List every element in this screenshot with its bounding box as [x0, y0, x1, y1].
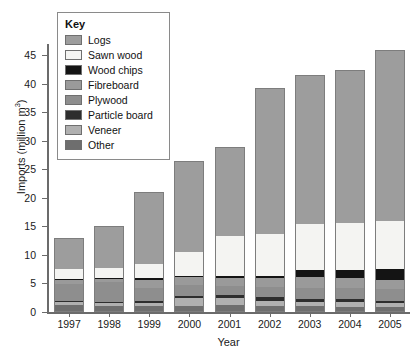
bar-stack: [94, 227, 124, 312]
bar-segment: [375, 221, 405, 269]
bar-segment: [335, 288, 365, 299]
y-axis-tick-label: 5: [8, 278, 36, 288]
bar-segment: [335, 278, 365, 288]
bar-segment: [335, 70, 365, 223]
y-axis-tick: [42, 141, 48, 142]
bar-segment: [174, 285, 204, 296]
y-axis-title: Imports (million m3): [13, 67, 27, 227]
bar-segment: [215, 147, 245, 237]
bar-segment: [174, 277, 204, 284]
legend-item-fibreboard: Fibreboard: [65, 78, 163, 92]
bar-segment: [54, 269, 84, 279]
legend-item-label: Wood chips: [88, 65, 143, 76]
bar-segment: [174, 252, 204, 275]
x-axis-tick-label: 2003: [290, 318, 330, 330]
y-axis-tick: [42, 198, 48, 199]
legend-item-label: Fibreboard: [88, 80, 139, 91]
x-axis-tick-label: 2001: [209, 318, 249, 330]
legend-swatch-icon: [65, 80, 82, 90]
x-axis-tick-label: 2004: [330, 318, 370, 330]
legend-item-label: Other: [88, 140, 114, 151]
y-axis-tick: [42, 255, 48, 256]
y-axis-tick: [42, 226, 48, 227]
bar-segment: [174, 161, 204, 252]
legend-item-veneer: Veneer: [65, 123, 163, 137]
bar-segment: [134, 192, 164, 264]
legend-swatch-icon: [65, 65, 82, 75]
bar-segment: [54, 284, 84, 301]
bar-stack: [375, 50, 405, 312]
legend-swatch-icon: [65, 50, 82, 60]
bar-segment: [295, 75, 325, 223]
bar-segment: [134, 280, 164, 288]
y-axis-tick-label: 10: [8, 250, 36, 260]
x-axis-tick-label: 2002: [250, 318, 290, 330]
bar-segment: [255, 287, 285, 297]
bar-segment: [375, 50, 405, 221]
bar-segment: [255, 234, 285, 276]
bar-segment: [295, 270, 325, 277]
y-axis-tick: [42, 169, 48, 170]
bar-segment: [335, 223, 365, 271]
legend-item-label: Veneer: [88, 125, 121, 136]
legend: Key LogsSawn woodWood chipsFibreboardPly…: [57, 12, 170, 160]
legend-item-plywood: Plywood: [65, 93, 163, 107]
bar-segment: [295, 277, 325, 287]
legend-swatch-icon: [65, 110, 82, 120]
legend-title: Key: [65, 18, 163, 30]
x-axis-tick: [149, 312, 150, 317]
y-axis-tick: [42, 84, 48, 85]
x-axis-tick: [109, 312, 110, 317]
bar-segment: [215, 298, 245, 305]
bar-stack: [54, 238, 84, 312]
bar-segment: [174, 298, 204, 306]
bar-segment: [94, 282, 124, 301]
x-axis-tick-label: 2000: [169, 318, 209, 330]
bar-segment: [375, 289, 405, 300]
bar-segment: [54, 305, 84, 312]
bar-segment: [295, 224, 325, 271]
x-axis-tick: [350, 312, 351, 317]
y-axis-tick: [42, 112, 48, 113]
bar-segment: [215, 278, 245, 286]
x-axis-tick-label: 2005: [370, 318, 410, 330]
bar-stack: [174, 161, 204, 312]
bar-stack: [335, 70, 365, 312]
bar-segment: [94, 227, 124, 269]
bar-segment: [134, 264, 164, 278]
x-axis-tick: [270, 312, 271, 317]
legend-swatch-icon: [65, 95, 82, 105]
x-axis-line: [47, 312, 410, 314]
legend-swatch-icon: [65, 125, 82, 135]
bar-segment: [375, 269, 405, 279]
x-axis-tick-label: 1997: [49, 318, 89, 330]
x-axis-tick: [69, 312, 70, 317]
legend-item-wood-chips: Wood chips: [65, 63, 163, 77]
y-axis-tick-label: 45: [8, 50, 36, 60]
bar-segment: [215, 236, 245, 276]
stacked-bar-chart: 051015202530354045 Imports (million m3) …: [0, 0, 418, 355]
x-axis-tick: [230, 312, 231, 317]
x-axis-tick-label: 1999: [129, 318, 169, 330]
bar-segment: [255, 278, 285, 287]
legend-swatch-icon: [65, 35, 82, 45]
legend-item-sawn-wood: Sawn wood: [65, 48, 163, 62]
x-axis-tick: [189, 312, 190, 317]
legend-item-logs: Logs: [65, 33, 163, 47]
x-axis-title: Year: [47, 336, 410, 348]
legend-item-particle-board: Particle board: [65, 108, 163, 122]
x-axis-tick-label: 1998: [89, 318, 129, 330]
legend-item-other: Other: [65, 138, 163, 152]
bar-stack: [295, 75, 325, 312]
bar-segment: [94, 268, 124, 278]
legend-items: LogsSawn woodWood chipsFibreboardPlywood…: [65, 33, 163, 152]
bar-segment: [295, 288, 325, 299]
legend-item-label: Plywood: [88, 95, 128, 106]
bar-segment: [134, 288, 164, 301]
bar-stack: [134, 192, 164, 312]
bar-segment: [215, 305, 245, 312]
legend-item-label: Particle board: [88, 110, 153, 121]
y-axis-tick: [42, 55, 48, 56]
x-axis-tick: [390, 312, 391, 317]
legend-item-label: Sawn wood: [88, 50, 142, 61]
